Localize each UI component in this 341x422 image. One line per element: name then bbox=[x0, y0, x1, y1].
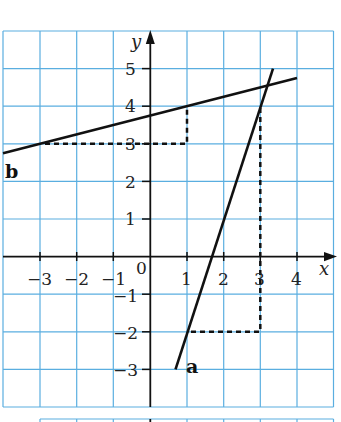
svg-text:−2: −2 bbox=[113, 323, 138, 343]
svg-text:−1: −1 bbox=[113, 286, 138, 306]
y-axis-label: y bbox=[130, 31, 142, 52]
svg-text:−2: −2 bbox=[64, 269, 89, 289]
svg-text:5: 5 bbox=[125, 59, 136, 79]
svg-text:3: 3 bbox=[125, 134, 136, 154]
line-a-label: a bbox=[186, 355, 198, 377]
svg-text:1: 1 bbox=[181, 269, 192, 289]
line-b-label: b bbox=[5, 160, 18, 182]
svg-text:4: 4 bbox=[125, 96, 136, 116]
coordinate-graph: −3 −2 −1 1 2 3 4 5 4 3 2 1 −1 −2 −3 0 x … bbox=[0, 0, 341, 422]
x-axis-label: x bbox=[319, 258, 329, 279]
grid bbox=[3, 31, 334, 422]
svg-text:0: 0 bbox=[136, 258, 147, 278]
y-axis-arrow-icon bbox=[146, 30, 155, 44]
svg-text:4: 4 bbox=[291, 269, 302, 289]
svg-text:3: 3 bbox=[254, 269, 265, 289]
svg-text:2: 2 bbox=[125, 172, 136, 192]
svg-text:−3: −3 bbox=[113, 360, 138, 380]
svg-text:−3: −3 bbox=[27, 269, 52, 289]
axes bbox=[3, 40, 328, 422]
svg-text:2: 2 bbox=[218, 269, 229, 289]
svg-text:1: 1 bbox=[125, 209, 136, 229]
